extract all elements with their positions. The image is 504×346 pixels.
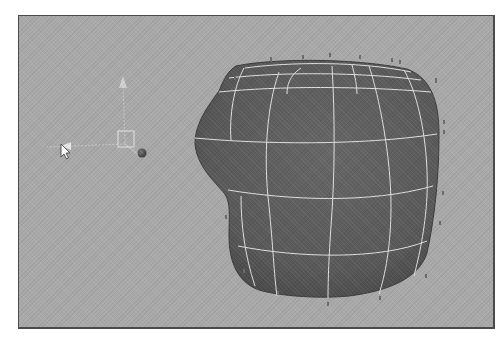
nurbs-surface[interactable] (195, 53, 445, 306)
manipulator-y-axis[interactable] (123, 83, 125, 143)
y-axis-arrowhead[interactable] (119, 76, 127, 88)
3d-viewport[interactable] (18, 15, 495, 329)
manipulator-x-axis[interactable] (47, 144, 125, 147)
viewport-canvas[interactable] (19, 16, 495, 329)
pivot-ball-icon[interactable] (138, 149, 147, 158)
surface-body[interactable] (195, 60, 439, 297)
